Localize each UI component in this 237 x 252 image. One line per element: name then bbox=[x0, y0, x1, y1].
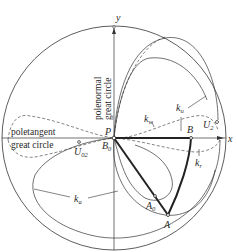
point-u02-label: U02 bbox=[74, 146, 88, 158]
k-u-label: ku bbox=[176, 102, 184, 114]
k-a-leader-right bbox=[88, 191, 118, 198]
y-axis-label: y bbox=[115, 12, 121, 23]
k-u-leader bbox=[188, 96, 206, 108]
polenormal-label-line2: great circle bbox=[103, 78, 113, 120]
point-a0 bbox=[154, 195, 157, 198]
point-a0-label: A0 bbox=[145, 200, 156, 212]
point-a bbox=[167, 214, 170, 217]
point-u02 bbox=[78, 141, 81, 144]
x-axis-arrow-icon bbox=[217, 136, 224, 140]
y-axis-arrow-icon bbox=[112, 28, 116, 34]
point-u2-label: U2 bbox=[203, 119, 214, 131]
dashed-upper-arc bbox=[114, 37, 165, 138]
k-r-label: kr bbox=[195, 157, 202, 169]
polenormal-label-line1: polenormal bbox=[93, 76, 103, 120]
point-p-label: P bbox=[104, 126, 111, 137]
poletangent-label-line1: poletangent bbox=[11, 127, 56, 137]
k-a-label: ka bbox=[74, 193, 82, 205]
point-b-label: B bbox=[187, 124, 193, 135]
curve-a-arc bbox=[113, 138, 215, 215]
point-a-label: A bbox=[163, 219, 171, 230]
point-u2 bbox=[216, 121, 219, 124]
poletangent-label-line2: great circle bbox=[11, 140, 53, 150]
y-axis-top-point bbox=[113, 26, 116, 29]
point-b bbox=[190, 137, 193, 140]
k-w-label: kw bbox=[144, 113, 153, 125]
link-b0-a0 bbox=[114, 138, 168, 215]
k-a-leader-left bbox=[34, 189, 70, 197]
point-b0-label: B0 bbox=[102, 140, 112, 152]
x-axis-label: x bbox=[227, 133, 233, 144]
stereographic-diagram: y x polenormal great circle poletangent … bbox=[0, 0, 237, 252]
curve-a0-loop bbox=[114, 138, 172, 200]
point-p-b0 bbox=[112, 136, 116, 140]
curve-k-a bbox=[33, 138, 220, 238]
